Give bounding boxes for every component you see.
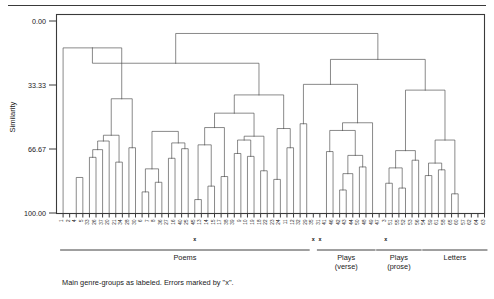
dendrogram-link [111,99,132,148]
leaf-label: 40 [178,219,183,225]
dendrogram-link [155,182,162,213]
error-mark-x: x [318,236,321,242]
leaf-label: 14 [204,219,209,225]
dendrogram-link [215,113,255,136]
dendrogram-link [405,90,445,150]
dendrogram-link [129,148,136,213]
leaf-label: 15 [211,219,216,225]
dendrogram-link [287,148,294,213]
dendrogram-link [152,131,178,168]
dendrogram-link [425,176,432,213]
leaf-label: 51 [388,219,393,225]
dendrogram-link [247,156,254,213]
error-marks: xxxx [193,236,387,242]
leaf-label: 28 [125,219,130,225]
group-label: (prose) [387,262,410,271]
leaf-label: 58 [441,219,446,225]
group-label: Letters [444,253,467,262]
leaf-label: 50 [355,219,360,225]
dendrogram-link [89,157,96,213]
leaf-label: 64 [474,219,479,225]
leaf-label: 53 [408,219,413,225]
dendrogram-link [205,128,225,177]
dendrogram-link [76,177,83,213]
leaf-label: 29 [303,219,308,225]
dendrogram-link [389,168,402,188]
dendrogram-link [274,179,281,213]
leaf-label: 22 [263,219,268,225]
leaf-label: 36 [158,219,163,225]
leaf-label: 32 [296,219,301,225]
leaf-label: 12 [290,219,295,225]
leaf-label: 7 [145,219,150,222]
leaf-label: 56 [415,219,420,225]
leaf-label: 46 [329,219,334,225]
group-label: Poems [173,253,196,262]
leaf-label: 55 [395,219,400,225]
dendrogram-link [277,129,290,180]
leaf-label: 52 [401,219,406,225]
leaf-label: 42 [336,219,341,225]
leaf-label: 34 [118,219,123,225]
dendrogram-link [116,162,123,213]
dendrogram-link [142,192,149,213]
dendrogram-link [195,200,202,213]
leaf-label: 48 [362,219,367,225]
leaf-label: 25 [184,219,189,225]
leaf-label: 24 [276,219,281,225]
dendrogram-link [326,152,333,213]
dendrogram-link [396,151,416,168]
leaf-label: 41 [322,219,327,225]
leaf-label: 2 [66,219,71,222]
group-brackets: PoemsPlays(verse)Plays(prose)Letters [60,250,487,271]
leaf-label: 30 [132,219,137,225]
dendrogram-link [208,186,215,213]
leaf-label: 5 [79,219,84,222]
leaf-label: 8 [151,219,156,222]
dendrogram-plot: 0.00 33.33 66.67 100.00 Similarity 12453… [0,0,494,299]
leaf-label: 11 [283,219,288,224]
leaf-label: 17 [217,219,222,225]
leaf-label: 65 [448,219,453,225]
dendrogram-link [261,171,268,213]
figure-caption: Main genre-groups as labeled. Errors mar… [62,278,234,287]
dendrogram-link [340,190,347,213]
error-mark-x: x [312,236,315,242]
leaf-label: 57 [461,219,466,225]
leaf-label: 26 [92,219,97,225]
plot-frame [57,15,485,214]
leaf-label: 37 [99,219,104,225]
dendrogram-tree [63,33,458,213]
leaf-label: 10 [243,219,248,225]
leaf-label: 54 [421,219,426,225]
y-tick-label-2: 66.67 [28,145,46,154]
dendrogram-link [98,141,110,213]
dendrogram-link [348,155,363,173]
dendrogram-link [359,167,366,213]
leaf-label: 13 [197,219,202,225]
dendrogram-link [103,135,119,162]
dendrogram-link [182,149,189,213]
leaf-label: 60 [454,219,459,225]
dendrogram-link [234,153,241,213]
error-mark-x: x [384,236,387,242]
leaf-label: 61 [434,219,439,225]
leaf-labels-axis: 1245332637202134283067836271640254513141… [59,213,485,225]
leaf-label: 38 [224,219,229,225]
y-tick-label-1: 33.33 [28,81,46,90]
dendrogram-link [145,169,158,192]
leaf-label: 47 [375,219,380,225]
error-mark-x: x [193,236,196,242]
leaf-label: 4 [72,219,77,222]
dendrogram-figure: 0.00 33.33 66.67 100.00 Similarity 12453… [0,0,494,299]
leaf-label: 3 [382,219,387,222]
dendrogram-link [429,163,442,175]
dendrogram-link [412,160,419,213]
leaf-label: 21 [112,219,117,225]
dendrogram-link [343,123,373,213]
dendrogram-link [63,48,122,213]
dendrogram-link [330,59,425,90]
y-axis: 0.00 33.33 66.67 100.00 Similarity [8,17,57,218]
leaf-label: 19 [250,219,255,225]
leaf-label: 31 [316,219,321,225]
